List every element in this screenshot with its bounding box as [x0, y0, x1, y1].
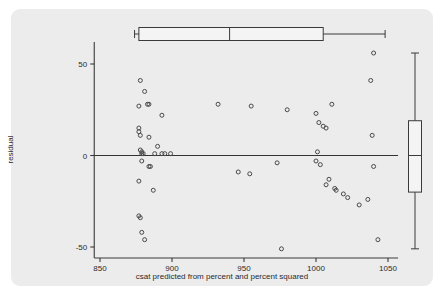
scatter-points-group — [137, 51, 380, 251]
scatter-point — [327, 177, 331, 181]
box-iqr — [409, 121, 422, 192]
axes-group — [90, 42, 398, 262]
y-marginal-boxplot — [409, 53, 422, 249]
scatter-point — [330, 102, 334, 106]
box-iqr — [139, 28, 323, 41]
scatter-point — [151, 188, 155, 192]
y-tick-label: 50 — [78, 60, 87, 69]
scatter-point — [249, 104, 253, 108]
scatter-point — [369, 78, 373, 82]
x-marginal-boxplot — [135, 28, 386, 41]
scatter-point — [137, 179, 141, 183]
scatter-point — [315, 150, 319, 154]
scatter-point — [143, 238, 147, 242]
scatter-point — [140, 230, 144, 234]
scatter-point — [275, 161, 279, 165]
scatter-point — [160, 113, 164, 117]
scatter-point — [370, 133, 374, 137]
scatter-point — [324, 183, 328, 187]
scatter-point — [314, 111, 318, 115]
y-tick-label: -50 — [76, 243, 88, 252]
scatter-point — [357, 203, 361, 207]
tick-labels-group: 85090095010001050500-50 — [76, 60, 398, 273]
scatter-plot-svg: 85090095010001050500-50 — [0, 0, 444, 297]
scatter-point — [341, 192, 345, 196]
scatter-point — [137, 104, 141, 108]
scatter-point — [317, 121, 321, 125]
scatter-point — [147, 135, 151, 139]
scatter-point — [314, 159, 318, 163]
figure-container: 85090095010001050500-50 csat predicted f… — [0, 0, 444, 297]
scatter-point — [138, 133, 142, 137]
scatter-point — [279, 247, 283, 251]
scatter-point — [346, 196, 350, 200]
scatter-point — [156, 144, 160, 148]
scatter-point — [372, 51, 376, 55]
scatter-point — [143, 89, 147, 93]
y-axis-label: residual — [6, 120, 15, 180]
scatter-point — [138, 78, 142, 82]
scatter-point — [372, 164, 376, 168]
scatter-point — [216, 102, 220, 106]
x-axis-label: csat predicted from percent and percent … — [0, 272, 444, 281]
scatter-point — [248, 172, 252, 176]
scatter-point — [140, 159, 144, 163]
scatter-point — [366, 197, 370, 201]
scatter-point — [285, 108, 289, 112]
scatter-point — [318, 163, 322, 167]
y-tick-label: 0 — [83, 152, 88, 161]
scatter-point — [376, 238, 380, 242]
scatter-point — [236, 170, 240, 174]
